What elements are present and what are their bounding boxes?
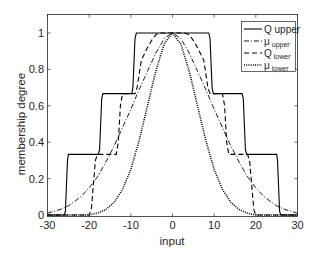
x-tick-label: 0: [169, 219, 175, 231]
x-tick-label: 20: [250, 219, 262, 231]
y-tick-label: 0.2: [29, 173, 44, 185]
y-tick-label: 0: [38, 209, 44, 221]
legend-label: Q upper: [264, 24, 301, 35]
x-axis-label: input: [160, 235, 186, 247]
x-tick-label: -20: [81, 219, 97, 231]
y-tick-label: 0.8: [29, 63, 44, 75]
y-tick-label: 1: [38, 27, 44, 39]
legend: Q upperμupperQlowerμlower: [242, 22, 301, 73]
y-tick-label: 0.6: [29, 100, 44, 112]
x-tick-label: 10: [208, 219, 220, 231]
y-axis-label: membership degree: [15, 73, 27, 175]
membership-chart: -30-20-10010203000.20.40.60.81 input mem…: [0, 0, 316, 258]
y-tick-label: 0.4: [29, 136, 44, 148]
x-tick-label: -10: [123, 219, 139, 231]
x-tick-label: 30: [291, 219, 303, 231]
